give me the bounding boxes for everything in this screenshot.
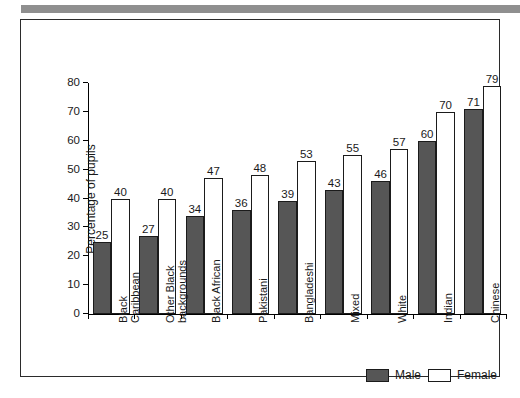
y-tick-mark xyxy=(83,198,88,199)
bar-female-6: 57 xyxy=(390,149,409,314)
y-tick-label: 30 xyxy=(67,220,80,232)
bar-male-4: 39 xyxy=(278,201,297,314)
y-tick-mark xyxy=(83,111,88,112)
y-tick-label: 60 xyxy=(67,134,80,146)
x-tick-mark xyxy=(413,314,414,319)
bar-value-label: 46 xyxy=(374,168,387,180)
x-tick-mark xyxy=(320,314,321,319)
y-tick-mark xyxy=(83,226,88,227)
bar-value-label: 36 xyxy=(235,197,248,209)
y-tick: 20 xyxy=(88,255,89,256)
bar-male-7: 60 xyxy=(418,141,437,314)
x-category-label: Bangladeshi xyxy=(303,262,315,323)
bar-value-label: 60 xyxy=(421,128,434,140)
x-category-label: Other Black backgrounds xyxy=(164,260,189,323)
legend-item-female: Female xyxy=(428,368,497,382)
x-tick-mark xyxy=(367,314,368,319)
bar-value-label: 48 xyxy=(253,162,266,174)
y-tick: 60 xyxy=(88,140,89,141)
bar-value-label: 25 xyxy=(96,229,109,241)
bar-value-label: 39 xyxy=(281,188,294,200)
bar-value-label: 40 xyxy=(161,186,174,198)
x-category-label: Pakistani xyxy=(257,278,269,323)
y-tick: 70 xyxy=(88,111,89,112)
y-tick: 80 xyxy=(88,82,89,83)
x-category-label: Chinese xyxy=(489,283,501,323)
x-category-label: Mixed xyxy=(349,294,361,323)
x-category-label: Black Caribbean xyxy=(117,272,142,323)
x-tick-mark xyxy=(460,314,461,319)
x-tick-mark xyxy=(88,314,89,319)
y-tick-mark xyxy=(83,255,88,256)
plot-area: Percentage of pupils 01020304050607080 2… xyxy=(88,83,506,315)
x-tick-mark xyxy=(506,314,507,319)
y-tick-label: 40 xyxy=(67,192,80,204)
y-tick-label: 70 xyxy=(67,105,80,117)
y-tick: 40 xyxy=(88,198,89,199)
y-tick-label: 20 xyxy=(67,249,80,261)
bar-male-6: 46 xyxy=(371,181,390,314)
bar-value-label: 79 xyxy=(486,73,499,85)
x-category-label: White xyxy=(396,295,408,323)
female-swatch xyxy=(428,369,451,382)
bar-value-label: 57 xyxy=(393,136,406,148)
y-tick-label: 50 xyxy=(67,163,80,175)
bar-female-7: 70 xyxy=(436,112,455,314)
bar-value-label: 70 xyxy=(439,99,452,111)
legend-label: Female xyxy=(457,368,497,382)
legend-item-male: Male xyxy=(366,368,421,382)
y-tick-label: 0 xyxy=(74,307,80,319)
y-tick-mark xyxy=(83,140,88,141)
figure-frame: Percentage of pupils 01020304050607080 2… xyxy=(20,19,500,377)
bar-value-label: 47 xyxy=(207,165,220,177)
y-tick: 10 xyxy=(88,284,89,285)
x-category-label: Indian xyxy=(442,293,454,323)
y-tick-mark xyxy=(83,82,88,83)
y-tick-label: 10 xyxy=(67,278,80,290)
bar-male-3: 36 xyxy=(232,210,251,314)
x-category-label: Black African xyxy=(210,259,222,323)
bar-female-8: 79 xyxy=(483,86,502,314)
y-tick-label: 80 xyxy=(67,76,80,88)
legend-label: Male xyxy=(395,368,421,382)
x-tick-mark xyxy=(227,314,228,319)
bar-female-5: 55 xyxy=(343,155,362,314)
y-tick: 30 xyxy=(88,226,89,227)
bar-male-5: 43 xyxy=(325,190,344,314)
bar-value-label: 40 xyxy=(114,186,127,198)
chart-legend: MaleFemale xyxy=(366,368,497,382)
x-tick-mark xyxy=(274,314,275,319)
bar-value-label: 34 xyxy=(188,203,201,215)
y-tick-mark xyxy=(83,284,88,285)
bar-value-label: 55 xyxy=(346,142,359,154)
bar-value-label: 71 xyxy=(467,96,480,108)
bar-male-8: 71 xyxy=(464,109,483,314)
chart-page: Percentage of pupils 01020304050607080 2… xyxy=(0,0,520,398)
bar-value-label: 43 xyxy=(328,177,341,189)
y-tick-mark xyxy=(83,169,88,170)
y-tick: 50 xyxy=(88,169,89,170)
bar-male-1: 27 xyxy=(139,236,158,314)
bar-value-label: 27 xyxy=(142,223,155,235)
male-swatch xyxy=(366,369,389,382)
top-decorative-rule xyxy=(21,5,520,13)
bar-value-label: 53 xyxy=(300,148,313,160)
bar-male-0: 25 xyxy=(93,242,112,314)
